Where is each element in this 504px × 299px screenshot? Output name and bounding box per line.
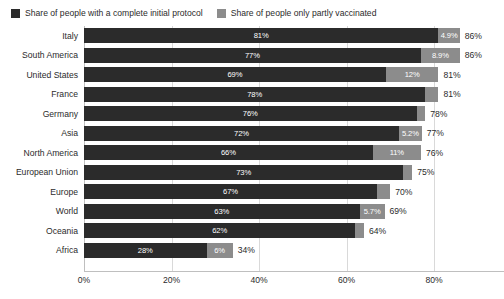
- bar-segment-partial[interactable]: 5.7%: [360, 204, 385, 219]
- bar-row[interactable]: World63%5.7%69%: [84, 202, 504, 222]
- stacked-bar[interactable]: 81%4.9%: [84, 28, 460, 43]
- legend-entry-partial[interactable]: Share of people only partly vaccinated: [217, 8, 377, 18]
- bar-total-label: 81%: [438, 87, 460, 102]
- bar-total-label: 69%: [385, 204, 407, 219]
- category-label-south-america: South America: [0, 46, 78, 66]
- bar-segment-value: 62%: [212, 226, 227, 235]
- x-tick-label: 40%: [250, 275, 267, 285]
- category-label-asia: Asia: [0, 124, 78, 144]
- x-tick-label: 20%: [163, 275, 180, 285]
- bar-segment-partial[interactable]: [377, 184, 390, 199]
- stacked-bar[interactable]: 66%11%: [84, 145, 421, 160]
- bar-chart: Italy81%4.9%86%South America77%8.9%86%Un…: [0, 26, 504, 299]
- stacked-bar[interactable]: 73%: [84, 165, 412, 180]
- legend-label: Share of people with a complete initial …: [25, 8, 203, 18]
- bar-segment-value: 6%: [214, 246, 225, 255]
- x-axis-line: [84, 271, 504, 272]
- bar-segment-value: 76%: [243, 109, 258, 118]
- bar-segment-value: 28%: [138, 246, 153, 255]
- plot-area: Italy81%4.9%86%South America77%8.9%86%Un…: [84, 26, 504, 271]
- bar-segment-complete[interactable]: 78%: [84, 87, 425, 102]
- bar-segment-value: 8.9%: [432, 51, 449, 60]
- bar-segment-partial[interactable]: [417, 106, 426, 121]
- x-axis: 0%20%40%60%80%: [84, 271, 504, 299]
- bar-segment-partial[interactable]: 5.2%: [399, 126, 422, 141]
- category-label-european-union: European Union: [0, 163, 78, 183]
- chart-legend: Share of people with a complete initial …: [11, 8, 376, 18]
- stacked-bar[interactable]: 63%5.7%: [84, 204, 385, 219]
- stacked-bar[interactable]: 67%: [84, 184, 390, 199]
- bar-total-label: 81%: [438, 67, 460, 82]
- bar-segment-partial[interactable]: [403, 165, 412, 180]
- legend-swatch-icon: [11, 9, 20, 18]
- bar-row[interactable]: Oceania62%64%: [84, 221, 504, 241]
- bar-segment-complete[interactable]: 66%: [84, 145, 373, 160]
- bar-row[interactable]: Europe67%70%: [84, 182, 504, 202]
- stacked-bar[interactable]: 62%: [84, 223, 364, 238]
- bar-rows: Italy81%4.9%86%South America77%8.9%86%Un…: [84, 26, 504, 271]
- bar-total-label: 75%: [412, 165, 434, 180]
- bar-row[interactable]: Africa28%6%34%: [84, 241, 504, 261]
- bar-segment-partial[interactable]: 8.9%: [421, 48, 460, 63]
- category-label-france: France: [0, 85, 78, 105]
- bar-segment-value: 67%: [223, 187, 238, 196]
- bar-segment-complete[interactable]: 67%: [84, 184, 377, 199]
- bar-segment-value: 69%: [227, 70, 242, 79]
- stacked-bar[interactable]: 28%6%: [84, 243, 233, 258]
- bar-segment-complete[interactable]: 73%: [84, 165, 403, 180]
- category-label-north-america: North America: [0, 143, 78, 163]
- bar-row[interactable]: South America77%8.9%86%: [84, 46, 504, 66]
- bar-segment-partial[interactable]: 4.9%: [438, 28, 459, 43]
- bar-total-label: 64%: [364, 223, 386, 238]
- bar-row[interactable]: Germany76%78%: [84, 104, 504, 124]
- bar-segment-partial[interactable]: 6%: [207, 243, 233, 258]
- x-tick-label: 60%: [338, 275, 355, 285]
- bar-row[interactable]: North America66%11%76%: [84, 143, 504, 163]
- bar-segment-value: 72%: [234, 129, 249, 138]
- bar-segment-complete[interactable]: 76%: [84, 106, 417, 121]
- bar-segment-complete[interactable]: 72%: [84, 126, 399, 141]
- bar-total-label: 76%: [421, 145, 443, 160]
- stacked-bar[interactable]: 78%: [84, 87, 438, 102]
- bar-row[interactable]: France78%81%: [84, 85, 504, 105]
- category-label-oceania: Oceania: [0, 221, 78, 241]
- bar-row[interactable]: Italy81%4.9%86%: [84, 26, 504, 46]
- bar-segment-value: 78%: [247, 90, 262, 99]
- bar-segment-value: 81%: [254, 31, 269, 40]
- legend-entry-complete[interactable]: Share of people with a complete initial …: [11, 8, 203, 18]
- legend-label: Share of people only partly vaccinated: [231, 8, 377, 18]
- stacked-bar[interactable]: 76%: [84, 106, 425, 121]
- category-label-europe: Europe: [0, 182, 78, 202]
- bar-segment-complete[interactable]: 81%: [84, 28, 438, 43]
- bar-segment-value: 12%: [405, 70, 420, 79]
- bar-segment-value: 63%: [214, 207, 229, 216]
- bar-total-label: 34%: [233, 243, 255, 258]
- stacked-bar[interactable]: 69%12%: [84, 67, 438, 82]
- bar-segment-partial[interactable]: [355, 223, 364, 238]
- x-tick-label: 0%: [78, 275, 90, 285]
- category-label-united-states: United States: [0, 65, 78, 85]
- x-tick-label: 80%: [425, 275, 442, 285]
- legend-swatch-icon: [217, 9, 226, 18]
- bar-segment-partial[interactable]: 12%: [386, 67, 439, 82]
- bar-segment-complete[interactable]: 28%: [84, 243, 207, 258]
- bar-segment-complete[interactable]: 77%: [84, 48, 421, 63]
- bar-segment-partial[interactable]: 11%: [373, 145, 421, 160]
- bar-total-label: 86%: [460, 48, 482, 63]
- bar-row[interactable]: European Union73%75%: [84, 163, 504, 183]
- bar-total-label: 86%: [460, 28, 482, 43]
- category-label-italy: Italy: [0, 26, 78, 46]
- bar-segment-value: 5.2%: [402, 129, 419, 138]
- bar-segment-value: 73%: [236, 168, 251, 177]
- stacked-bar[interactable]: 77%8.9%: [84, 48, 460, 63]
- bar-row[interactable]: Asia72%5.2%77%: [84, 124, 504, 144]
- bar-segment-value: 66%: [221, 148, 236, 157]
- bar-segment-value: 5.7%: [364, 207, 381, 216]
- bar-segment-complete[interactable]: 62%: [84, 223, 355, 238]
- stacked-bar[interactable]: 72%5.2%: [84, 126, 422, 141]
- bar-segment-complete[interactable]: 69%: [84, 67, 386, 82]
- bar-segment-partial[interactable]: [425, 87, 438, 102]
- category-label-africa: Africa: [0, 241, 78, 261]
- bar-row[interactable]: United States69%12%81%: [84, 65, 504, 85]
- bar-segment-complete[interactable]: 63%: [84, 204, 360, 219]
